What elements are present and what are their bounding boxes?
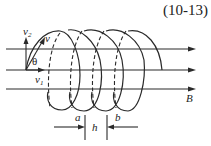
arrow-a-head (78, 125, 85, 130)
label-h: h (92, 121, 98, 133)
arrow-b-head (107, 125, 114, 130)
theta-label: θ (32, 55, 37, 67)
v1-arrowhead (38, 68, 45, 73)
equation-number: (10-13) (163, 2, 208, 19)
helix-end (128, 31, 162, 70)
diagram-canvas: (10-13) B v 2 v θ v (0, 0, 211, 146)
label-b: b (115, 111, 121, 123)
field-arrow-top (188, 47, 196, 52)
field-arrow-bottom (188, 87, 196, 92)
field-arrow-middle (188, 68, 196, 73)
helix-diagram: (10-13) B v 2 v θ v (0, 0, 211, 146)
label-a: a (75, 111, 81, 123)
field-label-B: B (186, 92, 193, 104)
v-label: v (45, 32, 50, 44)
v2-subscript: 2 (28, 31, 32, 39)
v1-subscript: 1 (40, 79, 44, 87)
